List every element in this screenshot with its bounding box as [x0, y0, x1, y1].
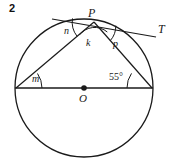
- circle-diagram-svg: [0, 0, 177, 166]
- center-point-dot: [81, 85, 87, 91]
- angle-label-k: k: [86, 38, 90, 48]
- geometry-figure: 2 P T n k p m O 55°: [0, 0, 177, 166]
- center-label-o: O: [79, 93, 87, 104]
- angle-arc-k: [79, 27, 107, 35]
- angle-label-n: n: [64, 26, 69, 36]
- angle-arc-55: [127, 73, 132, 88]
- point-label-p: P: [88, 7, 95, 19]
- point-label-t: T: [158, 23, 165, 35]
- problem-number: 2: [9, 3, 15, 14]
- angle-label-m: m: [32, 74, 39, 84]
- chord-p-to-right: [94, 22, 152, 88]
- angle-label-p: p: [113, 39, 118, 49]
- angle-arc-n: [72, 18, 77, 36]
- angle-label-55-degrees: 55°: [109, 72, 123, 82]
